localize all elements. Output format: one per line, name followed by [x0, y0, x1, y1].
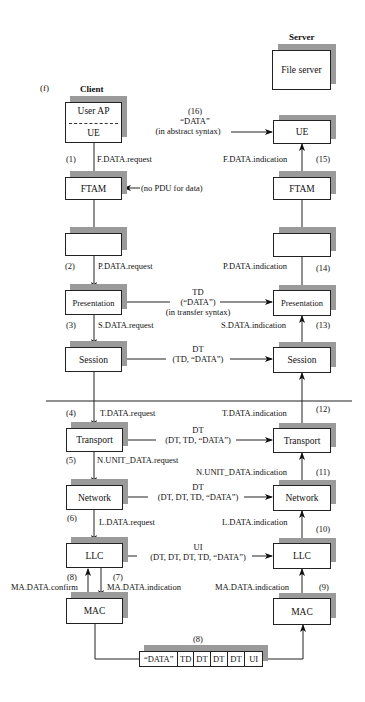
- step-13: (13): [316, 320, 330, 330]
- client-session-box: Session: [65, 347, 122, 372]
- step-16: (16): [150, 106, 240, 116]
- frame-cell-dt: DT: [194, 652, 211, 666]
- transport-pdu: DT (DT, TD, “DATA”): [150, 425, 246, 445]
- step-12: (12): [316, 404, 330, 414]
- abstract-syntax-note: (in abstract syntax): [150, 126, 240, 136]
- client-mac-box: MAC: [66, 598, 123, 624]
- step-9: (9): [319, 582, 329, 592]
- client-empty-box: [65, 233, 122, 256]
- client-presentation-box: Presentation: [65, 290, 122, 315]
- frame-step-8: (8): [193, 634, 203, 644]
- network-pdu: DT (DT, DT, TD, “DATA”): [140, 482, 256, 502]
- t-data-indication: T.DATA.indication: [222, 408, 287, 418]
- client-network-box: Network: [66, 485, 123, 510]
- step-4: (4): [66, 408, 76, 418]
- ftam-no-pdu-note: (no PDU for data): [141, 183, 203, 193]
- step-14: (14): [316, 263, 330, 273]
- server-mac-box: MAC: [273, 598, 331, 625]
- client-transport-box: Transport: [66, 428, 123, 452]
- t-data-request: T.DATA.request: [100, 408, 155, 418]
- n-unit-data-request: N.UNIT_DATA.request: [97, 455, 178, 465]
- application-pdu: (16) “DATA” (in abstract syntax): [150, 106, 240, 136]
- s-data-request: S.DATA.request: [98, 320, 154, 330]
- server-presentation-box: Presentation: [273, 290, 331, 316]
- session-dt-label: DT: [150, 344, 246, 354]
- transport-dt-label: DT: [150, 425, 246, 435]
- p-data-request: P.DATA.request: [98, 261, 153, 271]
- frame-cell-dt: DT: [211, 652, 228, 666]
- f-data-request: F.DATA.request: [97, 154, 152, 164]
- ma-data-indication-server: MA.DATA.indication: [215, 582, 289, 592]
- client-ue-label: UE: [66, 128, 121, 138]
- frame-cell-data: “DATA”: [140, 652, 178, 666]
- f-data-indication: F.DATA.indication: [223, 154, 287, 164]
- session-dt-content: (TD, “DATA”): [150, 354, 246, 364]
- transport-dt-content: (DT, TD, “DATA”): [150, 435, 246, 445]
- mac-frame: “DATA” TD DT DT DT UI: [139, 651, 263, 667]
- step-2: (2): [65, 261, 75, 271]
- session-pdu: DT (TD, “DATA”): [150, 344, 246, 364]
- dashed-divider: [69, 123, 118, 124]
- llc-ui-label: UI: [130, 542, 266, 552]
- server-session-box: Session: [273, 347, 331, 373]
- network-dt-label: DT: [140, 482, 256, 492]
- abstract-data: “DATA”: [150, 116, 240, 126]
- step-7: (7): [113, 572, 123, 582]
- server-ue-box: UE: [273, 120, 331, 144]
- l-data-indication: L.DATA.indication: [222, 517, 287, 527]
- step-15: (15): [316, 154, 330, 164]
- step-5: (5): [66, 455, 76, 465]
- step-8-confirm: (8): [67, 572, 77, 582]
- llc-ui-content: (DT, DT, DT, TD, “DATA”): [130, 552, 266, 562]
- td-label: TD: [150, 287, 246, 297]
- step-1: (1): [66, 154, 76, 164]
- client-user-ap-box: User AP UE: [65, 102, 122, 143]
- llc-pdu: UI (DT, DT, DT, TD, “DATA”): [130, 542, 266, 562]
- server-transport-box: Transport: [273, 428, 331, 453]
- transfer-syntax-note: (in transfer syntax): [150, 307, 246, 317]
- presentation-pdu: TD (“DATA”) (in transfer syntax): [150, 287, 246, 317]
- client-title: Client: [80, 84, 104, 94]
- step-10: (10): [316, 524, 330, 534]
- ma-data-indication-client: MA.DATA.indication: [107, 582, 181, 592]
- client-llc-box: LLC: [66, 543, 123, 568]
- frame-cell-ui: UI: [245, 652, 262, 666]
- frame-cell-dt: DT: [228, 652, 246, 666]
- file-server-box: File server: [272, 50, 331, 90]
- p-data-indication: P.DATA.indication: [223, 261, 287, 271]
- user-ap-label: User AP: [66, 106, 121, 116]
- server-empty-box: [273, 233, 331, 257]
- server-ftam-box: FTAM: [273, 177, 331, 200]
- network-dt-content: (DT, DT, TD, “DATA”): [140, 492, 256, 502]
- server-network-box: Network: [273, 485, 331, 511]
- figure-label: (f): [40, 83, 49, 93]
- step-11: (11): [316, 467, 330, 477]
- frame-cell-td: TD: [178, 652, 194, 666]
- client-ftam-box: FTAM: [65, 177, 122, 200]
- s-data-indication: S.DATA.indication: [221, 320, 286, 330]
- n-unit-data-indication: N.UNIT_DATA.indication: [196, 467, 287, 477]
- server-title: Server: [289, 32, 314, 42]
- step-6: (6): [67, 513, 77, 523]
- l-data-request: L.DATA.request: [99, 517, 155, 527]
- server-llc-box: LLC: [273, 543, 331, 569]
- step-3: (3): [66, 320, 76, 330]
- td-content: (“DATA”): [150, 297, 246, 307]
- ma-data-confirm: MA.DATA.confirm: [11, 582, 78, 592]
